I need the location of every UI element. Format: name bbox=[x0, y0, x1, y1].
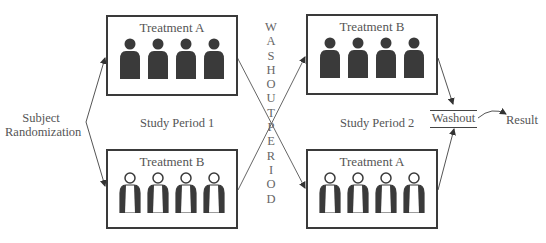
person-outline-icon bbox=[347, 171, 369, 213]
letter: H bbox=[266, 63, 275, 77]
person-solid-icon bbox=[403, 36, 425, 78]
study-period-2-label: Study Period 2 bbox=[340, 116, 414, 131]
person-solid-icon bbox=[375, 36, 397, 78]
randomization-label: Subject Randomization bbox=[5, 111, 77, 139]
person-outline-icon bbox=[175, 171, 197, 213]
randomization-label-line2: Randomization bbox=[5, 125, 77, 139]
treatment-box-period2-top: Treatment B bbox=[306, 14, 438, 95]
letter: O bbox=[266, 77, 275, 91]
letter: I bbox=[269, 163, 273, 177]
letter: S bbox=[268, 49, 275, 63]
subject-group bbox=[316, 36, 428, 78]
treatment-box-period1-top: Treatment A bbox=[106, 15, 238, 96]
subject-group bbox=[116, 171, 228, 213]
letter: W bbox=[265, 20, 277, 34]
person-solid-icon bbox=[175, 37, 197, 79]
treatment-box-period1-bottom: Treatment B bbox=[106, 149, 238, 229]
person-outline-icon bbox=[147, 171, 169, 213]
subject-group bbox=[116, 37, 228, 79]
washout-box: Washout bbox=[430, 110, 477, 128]
letter: E bbox=[267, 134, 275, 148]
box-title: Treatment B bbox=[108, 154, 236, 170]
letter: R bbox=[267, 149, 275, 163]
subject-group bbox=[316, 171, 428, 213]
person-solid-icon bbox=[147, 37, 169, 79]
person-outline-icon bbox=[119, 171, 141, 213]
result-label: Result bbox=[506, 113, 538, 128]
letter: A bbox=[266, 34, 275, 48]
person-outline-icon bbox=[403, 171, 425, 213]
box-title: Treatment A bbox=[108, 20, 236, 36]
letter: O bbox=[266, 177, 275, 191]
box-title: Treatment B bbox=[308, 19, 436, 35]
person-outline-icon bbox=[319, 171, 341, 213]
letter: T bbox=[267, 106, 275, 120]
person-solid-icon bbox=[119, 37, 141, 79]
person-solid-icon bbox=[319, 36, 341, 78]
person-solid-icon bbox=[347, 36, 369, 78]
person-outline-icon bbox=[375, 171, 397, 213]
person-outline-icon bbox=[203, 171, 225, 213]
treatment-box-period2-bottom: Treatment A bbox=[306, 149, 438, 229]
washout-period-vertical-label: W A S H O U T P E R I O D bbox=[263, 20, 279, 206]
box-title: Treatment A bbox=[308, 154, 436, 170]
letter: D bbox=[266, 192, 275, 206]
letter: P bbox=[268, 120, 275, 134]
person-solid-icon bbox=[203, 37, 225, 79]
randomization-label-line1: Subject bbox=[5, 111, 77, 125]
letter: U bbox=[266, 91, 275, 105]
study-period-1-label: Study Period 1 bbox=[140, 116, 214, 131]
